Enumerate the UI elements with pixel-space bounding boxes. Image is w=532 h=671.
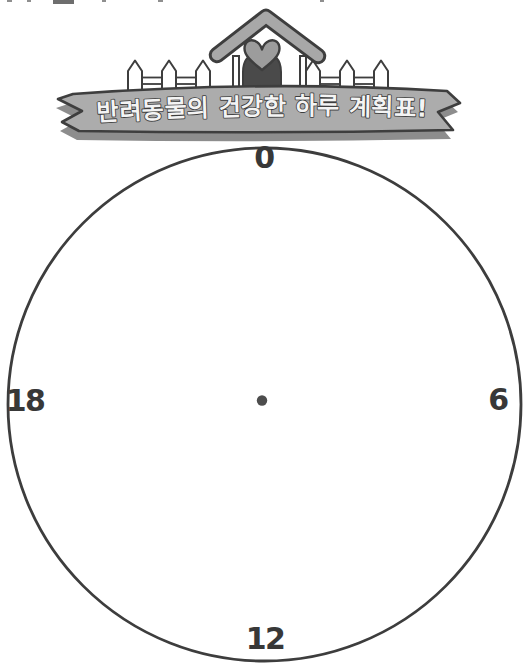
top-edge-fragment bbox=[320, 0, 324, 2]
fence-rail bbox=[176, 78, 196, 85]
fence-rail bbox=[354, 78, 374, 85]
hour-label-0: 0 bbox=[254, 140, 274, 175]
worksheet-canvas: 반려동물의 건강한 하루 계획표! 0 6 12 18 bbox=[0, 0, 532, 671]
top-edge-fragment bbox=[53, 0, 74, 4]
fence-rail bbox=[142, 78, 162, 85]
top-edge-fragment bbox=[7, 0, 12, 2]
hour-label-6: 6 bbox=[488, 382, 508, 417]
top-edge-fragment bbox=[158, 0, 163, 2]
top-edge-fragment bbox=[102, 0, 106, 2]
hour-label-12: 12 bbox=[246, 621, 285, 656]
hour-label-18: 18 bbox=[6, 383, 45, 418]
top-edge-fragment bbox=[27, 0, 31, 2]
clock-center-dot bbox=[257, 395, 267, 405]
pet-daily-schedule-worksheet: 반려동물의 건강한 하루 계획표! 0 6 12 18 bbox=[0, 0, 532, 671]
fence-rail bbox=[320, 78, 340, 85]
